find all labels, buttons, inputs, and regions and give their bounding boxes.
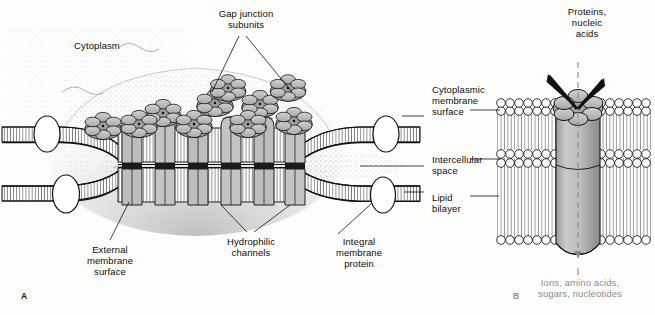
- label-external-membrane-surface: External membrane surface: [62, 244, 158, 277]
- label-permeant-solutes: Ions, amino acids, sugars, nucleotides: [510, 277, 650, 299]
- label-gap-junction-subunits: Gap junction subunits: [188, 8, 304, 30]
- label-hydrophilic-channels: Hydrophilic channels: [205, 236, 297, 258]
- label-integral-membrane-protein: Integral membrane protein: [316, 236, 402, 269]
- panel-label-b: B: [513, 291, 519, 301]
- panel-label-a: A: [21, 291, 27, 301]
- figure-gap-junction: Gap junction subunits Cytoplasm Cytoplas…: [0, 0, 655, 315]
- label-lipid-bilayer: Lipid bilayer: [432, 192, 502, 214]
- label-proteins-nucleic-acids: Proteins, nucleic acids: [552, 6, 622, 39]
- label-intercellular-space: Intercellular space: [432, 154, 512, 176]
- leader-lines-panel-b: [470, 110, 500, 196]
- label-cytoplasmic-membrane-surface: Cytoplasmic membrane surface: [432, 84, 514, 117]
- label-cytoplasm: Cytoplasm: [52, 40, 142, 51]
- bilayer-right: [597, 99, 653, 245]
